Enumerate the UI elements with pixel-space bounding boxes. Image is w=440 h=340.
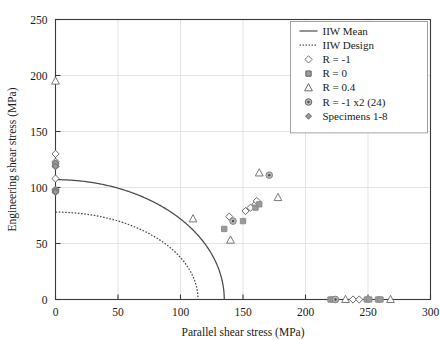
y-tick-label: 150 <box>30 126 48 138</box>
marker-circle-dot-center <box>334 298 336 300</box>
x-tick-label: 100 <box>172 306 190 318</box>
legend-label: R = -1 x2 (24) <box>323 96 386 109</box>
marker-filled-square <box>240 218 245 223</box>
x-tick-label: 250 <box>359 306 377 318</box>
legend-label: IIW Design <box>323 39 375 51</box>
legend-label: R = 0.4 <box>323 81 356 93</box>
x-tick-label: 50 <box>112 306 124 318</box>
y-axis-title: Engineering shear stress (MPa) <box>6 87 19 231</box>
scatter-chart-figure: 050100150200250300 050100150200250 Paral… <box>0 0 440 340</box>
marker-filled-square <box>257 202 262 207</box>
y-tick-label: 200 <box>30 70 48 82</box>
marker-circle-dot-center <box>232 220 234 222</box>
x-tick-label: 300 <box>422 306 440 318</box>
x-axis-title: Parallel shear stress (MPa) <box>182 326 305 339</box>
y-tick-label: 0 <box>42 294 48 306</box>
marker-filled-square <box>367 297 372 302</box>
marker-filled-square <box>306 71 311 76</box>
x-tick-label: 0 <box>53 306 59 318</box>
y-tick-label: 50 <box>36 238 48 250</box>
legend-label: IIW Mean <box>323 25 369 37</box>
chart-legend: IIW MeanIIW DesignR = -1R = 0R = 0.4R = … <box>291 22 428 133</box>
chart-canvas: 050100150200250300 050100150200250 Paral… <box>0 0 440 340</box>
marker-circle-dot-center <box>307 101 309 103</box>
x-tick-label: 200 <box>297 306 315 318</box>
y-tick-label: 100 <box>30 182 48 194</box>
marker-filled-square <box>222 226 227 231</box>
x-tick-label: 150 <box>234 306 252 318</box>
marker-circle-dot-center <box>268 174 270 176</box>
legend-label: R = 0 <box>323 67 348 79</box>
marker-filled-square <box>378 297 383 302</box>
y-tick-label: 250 <box>30 14 48 26</box>
legend-label: Specimens 1-8 <box>323 110 389 122</box>
legend-label: R = -1 <box>323 53 351 65</box>
